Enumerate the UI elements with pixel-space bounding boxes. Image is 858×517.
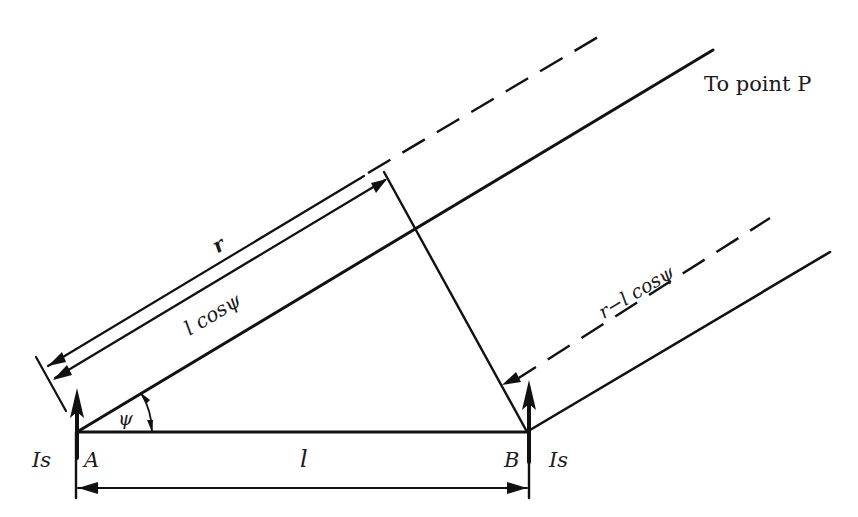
r-arrowhead-left-icon <box>48 352 66 366</box>
label-l: l <box>300 445 308 473</box>
label-source-a: Is <box>31 448 51 472</box>
label-point-b: B <box>503 448 519 472</box>
label-to-point-p: To point P <box>704 72 811 96</box>
dim-l-arrowhead-left-icon <box>78 482 98 494</box>
psi-arc-arrowhead-top-icon <box>141 393 150 404</box>
ray-from-b <box>530 252 830 430</box>
label-source-b: Is <box>548 448 568 472</box>
label-r: r <box>208 231 231 258</box>
lcospsi-arrowhead-right-icon <box>371 179 387 193</box>
label-l-cos-psi: l cosψ <box>180 288 246 341</box>
psi-arc-arrowhead-bottom-icon <box>147 420 153 432</box>
perpendicular-from-b <box>384 172 526 430</box>
r-line-solid <box>48 176 364 366</box>
ray-from-a <box>77 50 713 432</box>
lcospsi-line <box>55 180 385 378</box>
label-r-minus-l-cos-psi: r−l cosψ <box>594 260 678 323</box>
r-minus-lcospsi-arrowhead-icon <box>502 372 521 385</box>
dim-l-arrowhead-right-icon <box>507 482 527 494</box>
r-line-dashed-extension <box>368 37 598 173</box>
lcospsi-arrowhead-left-icon <box>53 365 72 380</box>
label-point-a: A <box>82 448 99 472</box>
array-geometry-diagram: To point P r l cosψ r−l cosψ ψ l A B Is … <box>0 0 858 517</box>
label-psi: ψ <box>118 407 134 429</box>
